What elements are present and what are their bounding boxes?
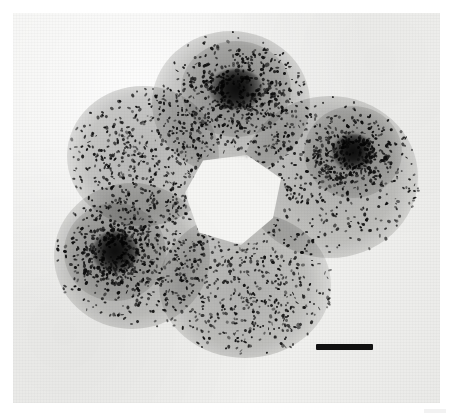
scale-bar [316,344,373,350]
scan-artifact [424,409,446,413]
micrograph-panel [13,13,440,403]
nucleolus-right [332,134,374,170]
specimen-rosette [13,13,440,403]
nucleolus-top [209,69,263,109]
nucleolus-lower-left [92,231,138,273]
micrograph-figure [0,0,457,420]
